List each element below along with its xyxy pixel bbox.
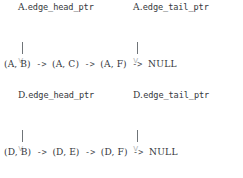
pointer-header-row: A.edge_head_ptr A.edge_tail_ptr (0, 0, 243, 20)
head-pointer-header: D.edge_head_ptr (18, 90, 94, 100)
edge-node-chain: (D, B)->(D, E)->(D, F)->NULL (4, 147, 240, 157)
edge-list-block-vertex-a: A.edge_head_ptr A.edge_tail_ptr v v (A, … (0, 0, 243, 60)
chain-arrow-icon: -> (128, 147, 149, 157)
diagram-canvas: A.edge_head_ptr A.edge_tail_ptr v v (A, … (0, 0, 243, 178)
pointer-header-row: D.edge_head_ptr D.edge_tail_ptr (0, 88, 243, 108)
head-pointer-label: edge_head_ptr (28, 2, 94, 12)
edge-node: (D, F) (101, 147, 128, 157)
chain-terminator: NULL (148, 59, 177, 69)
tail-pointer-line-icon (137, 130, 138, 142)
head-pointer-owner: A. (18, 2, 28, 12)
chain-arrow-icon: -> (31, 147, 52, 157)
chain-arrow-icon: -> (31, 59, 52, 69)
tail-pointer-line-icon (137, 42, 138, 54)
edge-node: (A, B) (4, 59, 31, 69)
edge-list-block-vertex-d: D.edge_head_ptr D.edge_tail_ptr v v (D, … (0, 88, 243, 148)
edge-node: (D, E) (52, 147, 79, 157)
edge-node: (D, B) (4, 147, 31, 157)
tail-pointer-label: edge_tail_ptr (143, 90, 209, 100)
chain-arrow-icon: -> (127, 59, 148, 69)
pointer-connector-row: v v (0, 20, 243, 60)
head-pointer-owner: D. (18, 90, 28, 100)
tail-pointer-header: D.edge_tail_ptr (133, 90, 209, 100)
chain-arrow-icon: -> (79, 59, 100, 69)
edge-node: (A, F) (100, 59, 126, 69)
edge-node-chain: (A, B)->(A, C)->(A, F)->NULL (4, 59, 240, 69)
tail-pointer-owner: A. (133, 2, 143, 12)
head-pointer-label: edge_head_ptr (28, 90, 94, 100)
tail-pointer-label: edge_tail_ptr (143, 2, 209, 12)
head-pointer-line-icon (22, 42, 23, 54)
tail-pointer-owner: D. (133, 90, 143, 100)
edge-node: (A, C) (52, 59, 79, 69)
head-pointer-header: A.edge_head_ptr (18, 2, 94, 12)
head-pointer-line-icon (22, 130, 23, 142)
tail-pointer-header: A.edge_tail_ptr (133, 2, 209, 12)
chain-terminator: NULL (149, 147, 178, 157)
chain-arrow-icon: -> (80, 147, 101, 157)
pointer-connector-row: v v (0, 108, 243, 148)
